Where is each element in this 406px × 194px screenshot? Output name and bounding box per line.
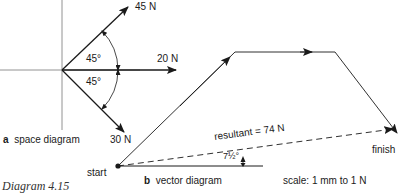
vector-45n-head xyxy=(180,57,230,106)
start-label: start xyxy=(87,168,106,178)
vector-30n xyxy=(335,52,397,133)
finish-label: finish xyxy=(372,145,395,155)
angle-lower-label: 45° xyxy=(86,77,101,87)
figure-caption: Diagram 4.15 xyxy=(2,180,69,192)
force-45n-label: 45 N xyxy=(135,2,156,12)
angle-upper-label: 45° xyxy=(86,54,101,64)
resultant-angle-label: 7½° xyxy=(223,152,239,161)
space-diagram-axes xyxy=(0,0,140,130)
start-point xyxy=(115,163,120,168)
diagram-canvas xyxy=(0,0,406,194)
scale-label: scale: 1 mm to 1 N xyxy=(283,176,366,186)
force-20n-label: 20 N xyxy=(157,54,178,64)
angle-arc-upper xyxy=(102,31,118,70)
vector-diagram-label: b vector diagram xyxy=(144,176,222,186)
force-30n-label: 30 N xyxy=(110,135,131,145)
space-diagram-label: a space diagram xyxy=(3,135,80,145)
angle-arc-lower xyxy=(102,70,118,109)
